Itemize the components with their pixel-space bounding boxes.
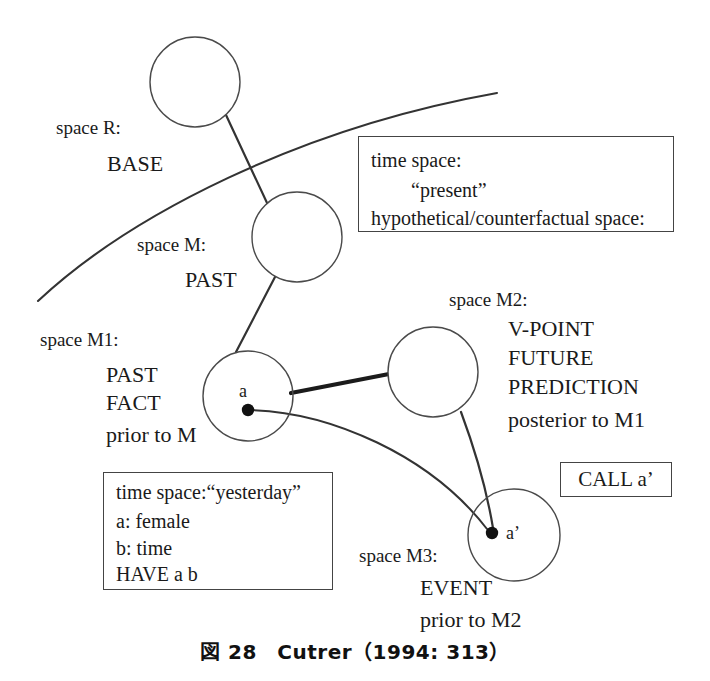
space-M2-line-1: FUTURE (508, 347, 594, 369)
space-R-header: space R: (56, 118, 121, 137)
edge-M2-to-M3 (461, 412, 493, 528)
element-label-a: a (239, 382, 247, 400)
space-M2-line-0: V-POINT (508, 318, 594, 340)
space-M3-header: space M3: (359, 546, 438, 565)
space-M2-header: space M2: (449, 290, 528, 309)
yesterday-box-row-2: b: time (116, 538, 172, 558)
space-M3-line-0: EVENT (420, 577, 492, 599)
call-box-label: CALL a’ (578, 467, 654, 492)
edge-M-to-M1 (236, 277, 275, 352)
space-M1-line-2: prior to M (106, 424, 196, 446)
present-box-row-2: hypothetical/counterfactual space: (371, 208, 645, 228)
space-R-line-0: BASE (107, 153, 163, 175)
element-dot-a (242, 404, 254, 416)
yesterday-box-row-0: time space:“yesterday” (116, 482, 301, 502)
edge-M1-to-M2 (291, 374, 389, 393)
space-M2-line-3: posterior to M1 (508, 409, 645, 431)
yesterday-info-box: time space:“yesterday” a: female b: time… (103, 472, 333, 590)
space-M1-line-1: FACT (106, 392, 161, 414)
edge-R-to-M (226, 115, 268, 205)
space-M1-line-0: PAST (106, 364, 158, 386)
space-M2-line-2: PREDICTION (508, 376, 639, 398)
present-info-box: time space: “present” hypothetical/count… (358, 136, 674, 232)
space-node-M[interactable] (252, 192, 342, 282)
space-node-M1[interactable] (203, 351, 293, 441)
space-M-line-0: PAST (185, 269, 237, 291)
space-M3-line-1: prior to M2 (420, 609, 521, 631)
figure-canvas: space R: BASE space M: PAST space M1: PA… (0, 0, 710, 681)
element-dot-a-prime (486, 527, 498, 539)
yesterday-box-row-3: HAVE a b (116, 564, 198, 584)
figure-caption: 図 28 Cutrer（1994: 313） (0, 636, 710, 665)
present-box-row-1: “present” (371, 180, 487, 200)
space-M-header: space M: (137, 235, 206, 254)
present-box-row-0: time space: (371, 150, 462, 170)
call-a-prime-box: CALL a’ (560, 462, 672, 497)
yesterday-box-row-1: a: female (116, 511, 190, 531)
space-node-R[interactable] (150, 37, 240, 127)
space-node-M2[interactable] (388, 327, 478, 417)
element-label-a-prime: a’ (506, 524, 520, 542)
space-M1-header: space M1: (40, 330, 119, 349)
